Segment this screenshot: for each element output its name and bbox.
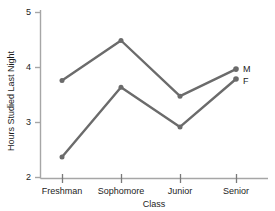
y-tick-label-5: 5	[17, 7, 31, 17]
data-point-m-sophomore	[119, 38, 124, 43]
x-tick-label-senior: Senior	[223, 186, 249, 196]
data-point-m-junior	[178, 94, 183, 99]
line-chart-figure: 5 4 3 2 Freshman Sophomore Junior Senior…	[0, 0, 275, 211]
x-tick-label-sophomore: Sophomore	[98, 186, 145, 196]
series-label-f: F	[243, 76, 249, 86]
data-point-m-senior	[233, 66, 239, 72]
data-point-f-junior	[178, 124, 183, 129]
series-markers-f	[60, 76, 239, 159]
y-tick-label-4: 4	[17, 62, 31, 72]
chart-plot-area	[0, 0, 275, 211]
series-label-m: M	[243, 64, 251, 74]
data-point-m-freshman	[60, 78, 65, 83]
data-point-f-sophomore	[119, 85, 124, 90]
x-tick-label-junior: Junior	[168, 186, 193, 196]
x-tick-label-freshman: Freshman	[42, 186, 83, 196]
series-line-m	[62, 41, 236, 97]
x-axis-title: Class	[143, 199, 166, 208]
y-tick-label-3: 3	[17, 117, 31, 127]
data-point-f-freshman	[60, 155, 65, 160]
y-axis-title: Hours Studied Last Night	[6, 43, 16, 159]
series-line-f	[62, 79, 236, 157]
y-tick-label-2: 2	[17, 172, 31, 182]
data-point-f-senior	[233, 76, 239, 82]
